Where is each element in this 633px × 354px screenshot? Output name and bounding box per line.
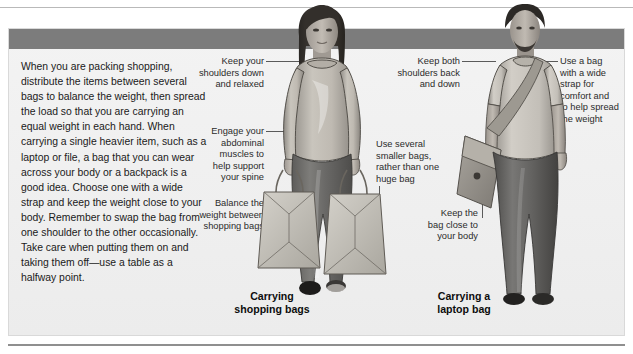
shoe-right <box>532 293 554 305</box>
eye-right <box>326 28 332 31</box>
eye-right <box>529 27 535 30</box>
figure-woman-shopping-bags <box>250 2 400 332</box>
shoe-left <box>299 281 321 295</box>
face <box>510 10 540 50</box>
eye-left <box>516 27 522 30</box>
bottom-divider-rule <box>8 344 625 346</box>
shoe-left <box>503 293 525 305</box>
trousers <box>493 152 558 294</box>
page-root: CARRYING BAGS When you are packing shopp… <box>0 0 633 354</box>
shoe-right-toe <box>327 284 345 292</box>
figure-man-laptop-bag <box>455 2 595 332</box>
eye-left <box>313 28 319 31</box>
body-paragraph: When you are packing shopping, distribut… <box>21 59 207 285</box>
laptop-bag-buckle <box>474 173 481 180</box>
